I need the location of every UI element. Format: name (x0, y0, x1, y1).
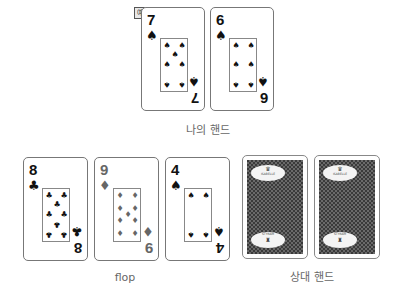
spade-icon: ♠ (163, 42, 171, 50)
spade-icon: ♠ (188, 75, 200, 88)
card-rank: 6 (216, 12, 224, 27)
my-hand-card-6-spades[interactable]: 6 ♠ ♠ ♠ ♠ ♠ ♠ ♠ ♠ 6 (210, 7, 274, 111)
spade-icon: ♠ (257, 75, 269, 88)
my-hand-label: 나의 핸드 (168, 121, 248, 137)
spade-icon: ♠ (178, 80, 186, 88)
crown-icon: ♛ (323, 165, 357, 172)
club-icon: ♣ (60, 211, 68, 219)
spade-icon: ♠ (215, 29, 227, 42)
brand-text: ISABELLE (333, 172, 347, 176)
emblem-icon: ♜ (323, 236, 357, 243)
flop-label: flop (90, 271, 160, 284)
club-icon: ♣ (28, 179, 40, 192)
club-icon: ♣ (60, 192, 68, 200)
pip-box: ♠ ♠ ♠ ♠ ♠ ♠ ♠ (160, 38, 188, 92)
spade-icon: ♠ (247, 80, 255, 88)
club-icon: ♣ (53, 201, 61, 209)
pip-box: ♦ ♦ ♦ ♦ ♦ ♦ ♦ ♦ ♦ (113, 188, 141, 242)
diamond-icon: ♦ (131, 192, 139, 200)
diamond-icon: ♦ (116, 205, 124, 213)
brand-text: ISABELLE (261, 172, 275, 176)
spade-icon: ♠ (178, 61, 186, 69)
my-hand-card-7-spades[interactable]: 7 ♠ ♠ ♠ ♠ ♠ ♠ ♠ ♠ ♠ 7 (141, 7, 205, 111)
diamond-icon: ♦ (131, 205, 139, 213)
spade-icon: ♠ (163, 80, 171, 88)
card-rank: 7 (147, 12, 155, 27)
card-rank: 7 (191, 91, 199, 106)
card-back-logo-top: ♛ ISABELLE (323, 165, 357, 181)
club-icon: ♣ (60, 230, 68, 238)
card-back-logo-top: ♛ ISABELLE (251, 165, 285, 181)
diamond-icon: ♦ (99, 179, 111, 192)
spade-icon: ♠ (202, 192, 210, 200)
card-rank: 4 (171, 162, 179, 177)
card-rank: 8 (29, 162, 37, 177)
emblem-icon: ♜ (251, 236, 285, 243)
spade-icon: ♠ (178, 42, 186, 50)
spade-icon: ♠ (163, 61, 171, 69)
flop-card-9-diamonds[interactable]: 9 ♦ ♦ ♦ ♦ ♦ ♦ ♦ ♦ ♦ ♦ ♦ 9 (94, 157, 159, 261)
flop-card-4-spades[interactable]: 4 ♠ ♠ ♠ ♠ ♠ ♠ 4 (165, 157, 230, 261)
diamond-icon: ♦ (116, 230, 124, 238)
club-icon: ♣ (45, 230, 53, 238)
spade-icon: ♠ (171, 51, 179, 59)
diamond-icon: ♦ (116, 217, 124, 225)
spade-icon: ♠ (232, 61, 240, 69)
spade-icon: ♠ (170, 179, 182, 192)
spade-icon: ♠ (232, 42, 240, 50)
flop-card-8-clubs[interactable]: 8 ♣ ♣ ♣ ♣ ♣ ♣ ♣ ♣ ♣ ♣ 8 (23, 157, 88, 261)
club-icon: ♣ (53, 220, 61, 228)
card-rank: 9 (145, 241, 153, 256)
club-icon: ♣ (45, 211, 53, 219)
club-icon: ♣ (45, 192, 53, 200)
spade-icon: ♠ (247, 61, 255, 69)
spade-icon: ♠ (187, 192, 195, 200)
card-back-logo-bottom: STYRAM ♜ (323, 232, 357, 248)
pip-box: ♠ ♠ ♠ ♠ ♠ ♠ (229, 38, 257, 92)
card-rank: 8 (74, 241, 82, 256)
pip-box: ♠ ♠ ♠ ♠ (184, 188, 212, 242)
spade-icon: ♠ (202, 230, 210, 238)
diamond-icon: ♦ (142, 225, 154, 238)
pip-box: ♣ ♣ ♣ ♣ ♣ ♣ ♣ ♣ (42, 188, 70, 242)
card-back-logo-bottom: STYRAM ♜ (251, 232, 285, 248)
card-rank: 4 (216, 241, 224, 256)
opponent-hand-label: 상대 핸드 (270, 268, 354, 284)
opponent-card-back-1[interactable]: ♛ ISABELLE STYRAM ♜ (242, 155, 308, 259)
opponent-card-back-2[interactable]: ♛ ISABELLE STYRAM ♜ (314, 155, 380, 259)
spade-icon: ♠ (146, 29, 158, 42)
card-rank: 9 (100, 162, 108, 177)
spade-icon: ♠ (247, 42, 255, 50)
diamond-icon: ♦ (131, 217, 139, 225)
spade-icon: ♠ (187, 230, 195, 238)
spade-icon: ♠ (232, 80, 240, 88)
card-rank: 6 (260, 91, 268, 106)
club-icon: ♣ (71, 225, 83, 238)
diamond-icon: ♦ (116, 192, 124, 200)
crown-icon: ♛ (251, 165, 285, 172)
spade-icon: ♠ (213, 225, 225, 238)
diamond-icon: ♦ (131, 230, 139, 238)
